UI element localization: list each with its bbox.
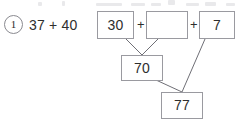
plus-sign-first: + bbox=[137, 18, 145, 32]
partial-sum-box[interactable]: 70 bbox=[121, 55, 163, 81]
addend-ones-box[interactable]: 7 bbox=[199, 11, 235, 39]
connector-ones-to-total bbox=[182, 39, 205, 92]
problem-expression: 37 + 40 bbox=[29, 16, 78, 34]
worksheet-problem: 1 37 + 40 30 + + 7 70 77 bbox=[0, 0, 245, 122]
connector-blank-to-partial bbox=[142, 39, 158, 55]
addend-tens-value: 30 bbox=[98, 12, 133, 38]
connector-partial-to-total bbox=[156, 80, 182, 92]
total-sum-value: 77 bbox=[162, 93, 202, 118]
connector-tens-to-partial bbox=[126, 39, 142, 55]
cropped-text-bleed bbox=[0, 0, 245, 7]
addend-ones-value: 7 bbox=[200, 12, 234, 38]
total-sum-box[interactable]: 77 bbox=[161, 92, 203, 119]
plus-sign-second: + bbox=[190, 18, 198, 32]
addend-tens-box[interactable]: 30 bbox=[97, 11, 134, 39]
partial-sum-value: 70 bbox=[122, 56, 162, 80]
problem-number-badge: 1 bbox=[4, 15, 23, 34]
addend-blank-box[interactable] bbox=[146, 11, 188, 39]
